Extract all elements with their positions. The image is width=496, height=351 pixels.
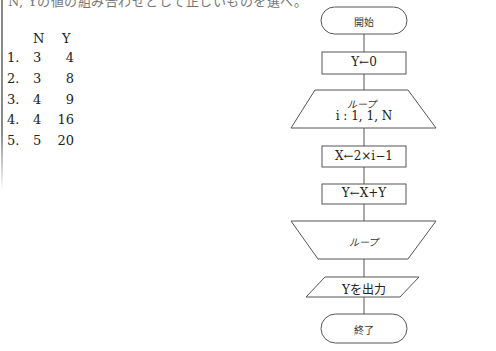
- step2-label: Y←X+Y: [322, 186, 406, 200]
- end-label: 終了: [321, 322, 407, 337]
- step1-label: X←2×i−1: [322, 149, 406, 163]
- flowchart: [0, 0, 496, 351]
- loop-start-condition: i : 1, 1, N: [300, 109, 428, 123]
- output-label: Yを出力: [312, 280, 416, 297]
- start-label: 開始: [321, 14, 407, 29]
- init-label: Y←0: [322, 55, 406, 69]
- loop-end-label: ループ: [318, 234, 408, 249]
